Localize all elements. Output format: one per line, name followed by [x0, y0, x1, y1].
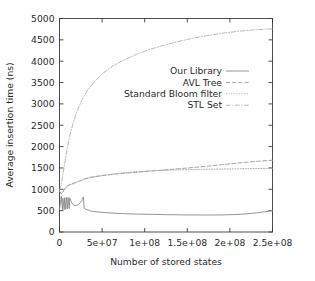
x-tick-label: 2e+08 [214, 237, 245, 248]
x-tick-label: 5e+07 [87, 237, 118, 248]
x-tick-label: 2.5e+08 [253, 237, 293, 248]
legend-label-1: AVL Tree [183, 77, 223, 88]
y-axis-title: Average insertion time (ns) [4, 62, 15, 187]
x-axis-tick-labels: 05e+071e+081.5e+082e+082.5e+08 [57, 237, 293, 248]
x-tick-label: 1.5e+08 [167, 237, 207, 248]
line-chart: 0500100015002000250030003500400045005000… [0, 0, 315, 281]
chart-figure: 0500100015002000250030003500400045005000… [0, 0, 315, 281]
y-tick-label: 4000 [31, 56, 55, 67]
y-tick-label: 1000 [31, 184, 55, 195]
legend-label-2: Standard Bloom filter [124, 88, 222, 99]
y-tick-label: 4500 [31, 34, 55, 45]
x-tick-label: 0 [57, 237, 63, 248]
legend-label-0: Our Library [170, 65, 222, 76]
legend-label-3: STL Set [187, 99, 222, 110]
y-tick-label: 500 [37, 205, 55, 216]
y-tick-label: 3500 [31, 77, 55, 88]
y-tick-label: 5000 [31, 13, 55, 24]
y-tick-label: 0 [49, 226, 55, 237]
y-tick-label: 2000 [31, 141, 55, 152]
y-tick-label: 1500 [31, 162, 55, 173]
y-tick-label: 2500 [31, 120, 55, 131]
x-axis-title: Number of stored states [110, 256, 222, 267]
y-tick-label: 3000 [31, 98, 55, 109]
x-tick-label: 1e+08 [129, 237, 160, 248]
